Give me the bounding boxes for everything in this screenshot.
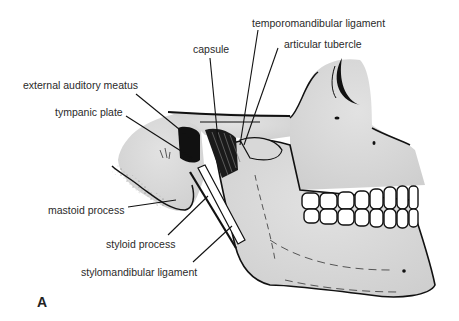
tmj-illustration <box>0 0 459 321</box>
label-capsule: capsule <box>193 44 229 55</box>
label-temporomandibular-ligament: temporomandibular ligament <box>252 18 385 29</box>
maxilla <box>290 58 425 190</box>
figure-panel-letter: A <box>37 294 47 310</box>
label-tympanic-plate: tympanic plate <box>55 107 123 118</box>
label-articular-tubercle: articular tubercle <box>284 39 362 50</box>
upper-teeth <box>302 186 418 209</box>
label-mastoid-process: mastoid process <box>48 205 124 216</box>
label-styloid-process: styloid process <box>106 239 175 250</box>
label-external-auditory-meatus: external auditory meatus <box>23 80 138 91</box>
label-stylomandibular-ligament: stylomandibular ligament <box>81 267 197 278</box>
